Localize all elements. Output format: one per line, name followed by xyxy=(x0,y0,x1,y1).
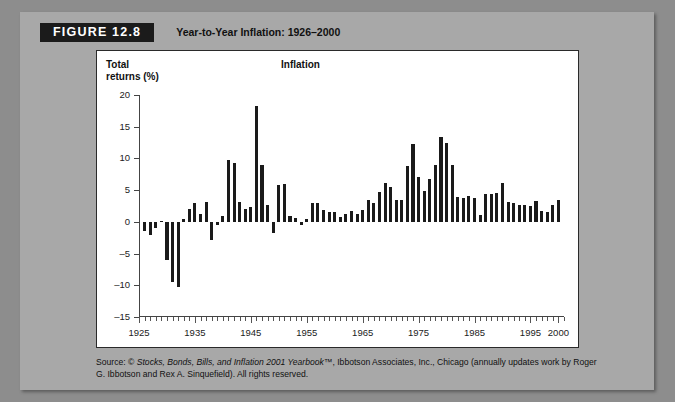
bar xyxy=(529,206,532,222)
bar xyxy=(473,198,476,222)
bar xyxy=(518,205,521,222)
bar xyxy=(233,163,236,222)
bar xyxy=(456,197,459,222)
x-tick-minor xyxy=(201,317,202,321)
bar xyxy=(546,212,549,222)
screenshot-root: FIGURE 12.8 Year-to-Year Inflation: 1926… xyxy=(0,0,675,402)
bar xyxy=(182,219,185,222)
x-tick-label: 1995 xyxy=(520,327,541,338)
bar xyxy=(294,218,297,222)
x-tick-minor xyxy=(206,317,207,321)
bar xyxy=(495,193,498,222)
x-tick-minor xyxy=(536,317,537,321)
bar-series-inflation xyxy=(139,95,564,317)
bar xyxy=(395,200,398,222)
x-tick-label: 1925 xyxy=(128,327,149,338)
x-tick-minor xyxy=(391,317,392,321)
bar xyxy=(333,212,336,222)
bar xyxy=(328,212,331,222)
x-tick-label: 2000 xyxy=(548,327,569,338)
bar xyxy=(361,210,364,222)
x-tick-minor xyxy=(553,317,554,321)
x-tick-minor xyxy=(547,317,548,321)
figure-number-badge: FIGURE 12.8 xyxy=(40,23,154,42)
x-tick-minor xyxy=(167,317,168,321)
x-tick-minor xyxy=(357,317,358,321)
bar xyxy=(417,177,420,221)
x-tick-minor xyxy=(564,317,565,321)
bar xyxy=(523,205,526,222)
x-tick-minor xyxy=(352,317,353,321)
bar xyxy=(484,194,487,222)
y-tick-label: 5 xyxy=(125,184,130,195)
x-tick-minor xyxy=(407,317,408,321)
x-tick-major xyxy=(419,317,420,323)
bar xyxy=(367,200,370,222)
x-tick-minor xyxy=(402,317,403,321)
x-tick-minor xyxy=(379,317,380,321)
x-tick-minor xyxy=(324,317,325,321)
x-tick-major xyxy=(475,317,476,323)
series-label: Inflation xyxy=(281,59,320,70)
x-tick-minor xyxy=(346,317,347,321)
bar xyxy=(216,222,219,225)
x-tick-minor xyxy=(458,317,459,321)
x-tick-minor xyxy=(301,317,302,321)
x-tick-minor xyxy=(514,317,515,321)
bar xyxy=(501,183,504,222)
bar xyxy=(462,198,465,222)
x-tick-major xyxy=(195,317,196,323)
bar xyxy=(423,191,426,221)
source-note: Source: © Stocks, Bonds, Bills, and Infl… xyxy=(96,356,601,380)
figure-title: Year-to-Year Inflation: 1926–2000 xyxy=(176,26,340,38)
bar xyxy=(305,219,308,222)
x-tick-minor xyxy=(145,317,146,321)
bar xyxy=(149,222,152,235)
bar xyxy=(372,203,375,222)
bar xyxy=(255,106,258,221)
bar xyxy=(534,201,537,222)
x-tick-minor xyxy=(173,317,174,321)
x-tick-minor xyxy=(312,317,313,321)
x-tick-minor xyxy=(178,317,179,321)
x-tick-minor xyxy=(184,317,185,321)
x-tick-minor xyxy=(329,317,330,321)
x-tick-minor xyxy=(150,317,151,321)
bar xyxy=(322,210,325,221)
bar xyxy=(445,143,448,222)
y-axis-caption-line2: returns (%) xyxy=(106,71,159,82)
x-tick-minor xyxy=(469,317,470,321)
x-tick-minor xyxy=(542,317,543,321)
x-tick-minor xyxy=(430,317,431,321)
x-tick-minor xyxy=(413,317,414,321)
bar xyxy=(512,203,515,221)
x-tick-minor xyxy=(486,317,487,321)
y-tick-label: 0 xyxy=(125,216,130,227)
bar xyxy=(277,185,280,222)
x-tick-label: 1935 xyxy=(184,327,205,338)
bar xyxy=(557,200,560,222)
bar xyxy=(316,203,319,222)
bar xyxy=(300,222,303,225)
bar xyxy=(339,217,342,221)
bar xyxy=(490,194,493,222)
bar xyxy=(227,160,230,222)
x-tick-minor xyxy=(268,317,269,321)
y-tick-label: 20 xyxy=(119,89,130,100)
bar xyxy=(411,144,414,221)
x-tick-minor xyxy=(240,317,241,321)
y-tick-label: –10 xyxy=(114,279,130,290)
x-tick-label: 1985 xyxy=(464,327,485,338)
x-tick-minor xyxy=(519,317,520,321)
x-tick-minor xyxy=(217,317,218,321)
x-tick-minor xyxy=(385,317,386,321)
bar xyxy=(238,202,241,222)
x-tick-minor xyxy=(189,317,190,321)
bar xyxy=(266,205,269,222)
x-tick-minor xyxy=(424,317,425,321)
x-tick-minor xyxy=(497,317,498,321)
y-tick-label: 10 xyxy=(119,152,130,163)
x-tick-major xyxy=(558,317,559,323)
bar xyxy=(350,211,353,222)
x-tick-minor xyxy=(452,317,453,321)
